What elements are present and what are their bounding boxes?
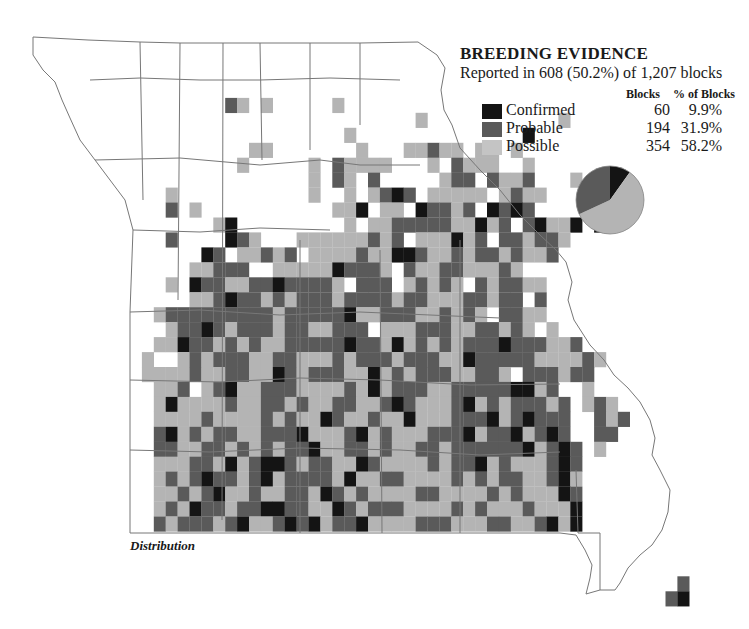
block-cell bbox=[523, 247, 535, 262]
block-cell bbox=[344, 158, 356, 173]
block-cell bbox=[237, 442, 249, 457]
block-cell bbox=[344, 352, 356, 367]
block-cell bbox=[320, 367, 332, 382]
block-cell bbox=[190, 517, 202, 532]
block-cell bbox=[451, 232, 463, 247]
block-cell bbox=[273, 322, 285, 337]
block-cell bbox=[404, 322, 416, 337]
block-cell bbox=[475, 397, 487, 412]
block-cell bbox=[535, 457, 547, 472]
block-cell bbox=[213, 367, 225, 382]
block-cell bbox=[273, 517, 285, 532]
block-cell bbox=[570, 457, 582, 472]
block-cell bbox=[666, 591, 678, 606]
block-cell bbox=[439, 188, 451, 203]
possible-swatch-icon bbox=[482, 140, 502, 155]
block-cell bbox=[404, 382, 416, 397]
block-cell bbox=[511, 292, 523, 307]
block-cell bbox=[451, 487, 463, 502]
block-cell bbox=[237, 457, 249, 472]
block-cell bbox=[213, 517, 225, 532]
block-cell bbox=[344, 427, 356, 442]
block-cell bbox=[392, 292, 404, 307]
block-cell bbox=[535, 502, 547, 517]
block-cell bbox=[439, 502, 451, 517]
block-cell bbox=[535, 397, 547, 412]
block-cell bbox=[523, 472, 535, 487]
block-cell bbox=[475, 262, 487, 277]
block-cell bbox=[332, 173, 344, 188]
block-cell bbox=[416, 203, 428, 218]
block-cell bbox=[309, 232, 321, 247]
block-cell bbox=[261, 502, 273, 517]
block-cell bbox=[320, 262, 332, 277]
block-cell bbox=[523, 203, 535, 218]
block-cell bbox=[368, 292, 380, 307]
block-cell bbox=[237, 98, 249, 113]
block-cell bbox=[178, 517, 190, 532]
block-cell bbox=[439, 367, 451, 382]
block-cell bbox=[439, 352, 451, 367]
block-cell bbox=[416, 487, 428, 502]
block-cell bbox=[463, 517, 475, 532]
block-cell bbox=[523, 322, 535, 337]
block-cell bbox=[249, 517, 261, 532]
block-cell bbox=[475, 307, 487, 322]
block-cell bbox=[344, 188, 356, 203]
block-cell bbox=[558, 412, 570, 427]
block-cell bbox=[368, 382, 380, 397]
block-cell bbox=[547, 472, 559, 487]
block-cell bbox=[523, 502, 535, 517]
block-cell bbox=[225, 457, 237, 472]
block-cell bbox=[380, 262, 392, 277]
block-cell bbox=[523, 487, 535, 502]
block-cell bbox=[535, 412, 547, 427]
block-cell bbox=[297, 232, 309, 247]
block-cell bbox=[380, 232, 392, 247]
block-cell bbox=[213, 307, 225, 322]
block-cell bbox=[368, 262, 380, 277]
block-cell bbox=[237, 247, 249, 262]
block-cell bbox=[201, 442, 213, 457]
block-cell bbox=[249, 143, 261, 158]
block-cell bbox=[547, 352, 559, 367]
legend-subtitle: Reported in 608 (50.2%) of 1,207 blocks bbox=[460, 64, 722, 82]
block-cell bbox=[285, 262, 297, 277]
block-cell bbox=[368, 487, 380, 502]
block-cell bbox=[404, 442, 416, 457]
block-cell bbox=[273, 412, 285, 427]
block-cell bbox=[297, 352, 309, 367]
block-cell bbox=[428, 472, 440, 487]
block-cell bbox=[237, 502, 249, 517]
block-cell bbox=[297, 457, 309, 472]
block-cell bbox=[439, 307, 451, 322]
block-cell bbox=[499, 247, 511, 262]
block-cell bbox=[439, 457, 451, 472]
block-cell bbox=[547, 218, 559, 233]
block-cell bbox=[261, 247, 273, 262]
block-cell bbox=[190, 367, 202, 382]
block-cell bbox=[225, 367, 237, 382]
block-cell bbox=[261, 382, 273, 397]
block-cell bbox=[178, 457, 190, 472]
block-cell bbox=[558, 457, 570, 472]
block-cell bbox=[439, 277, 451, 292]
block-cell bbox=[511, 502, 523, 517]
block-cell bbox=[523, 427, 535, 442]
block-cell bbox=[475, 367, 487, 382]
block-cell bbox=[285, 352, 297, 367]
block-cell bbox=[392, 322, 404, 337]
block-cell bbox=[285, 472, 297, 487]
block-cell bbox=[558, 472, 570, 487]
block-cell bbox=[201, 487, 213, 502]
block-cell bbox=[178, 337, 190, 352]
block-cell bbox=[190, 352, 202, 367]
block-cell bbox=[201, 307, 213, 322]
block-cell bbox=[237, 337, 249, 352]
block-cell bbox=[249, 427, 261, 442]
block-cell bbox=[249, 397, 261, 412]
block-cell bbox=[547, 337, 559, 352]
block-cell bbox=[344, 232, 356, 247]
block-cell bbox=[547, 517, 559, 532]
block-cell bbox=[261, 517, 273, 532]
